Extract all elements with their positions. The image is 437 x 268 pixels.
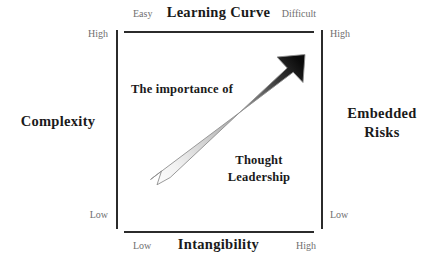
axis-title-right-line2: Risks	[330, 123, 434, 142]
tick-label-bottom-high: High	[272, 240, 316, 251]
annotation-thought: Thought	[216, 152, 302, 169]
annotation-importance-of: The importance of	[131, 82, 233, 97]
axis-title-right-line1: Embedded	[330, 104, 434, 123]
axis-title-bottom: Intangibility	[0, 236, 437, 253]
tick-label-top-difficult: Difficult	[272, 8, 316, 19]
annotation-leadership: Leadership	[216, 169, 302, 186]
axis-rule-bottom	[124, 231, 314, 233]
tick-label-top-easy: Easy	[133, 8, 152, 19]
tick-label-left-low: Low	[60, 209, 108, 220]
axis-title-right: Embedded Risks	[330, 104, 434, 142]
tick-label-left-high: High	[60, 28, 108, 39]
axis-title-top: Learning Curve	[0, 4, 437, 21]
annotation-thought-leadership: Thought Leadership	[216, 152, 302, 186]
tick-label-bottom-low: Low	[133, 240, 151, 251]
axis-rule-left	[116, 30, 118, 229]
diagram-canvas: Learning Curve Intangibility Complexity …	[0, 0, 437, 268]
axis-rule-top	[124, 31, 314, 33]
axis-rule-right	[321, 30, 323, 229]
axis-title-left: Complexity	[4, 113, 112, 130]
tick-label-right-high: High	[330, 28, 350, 39]
tick-label-right-low: Low	[330, 209, 348, 220]
